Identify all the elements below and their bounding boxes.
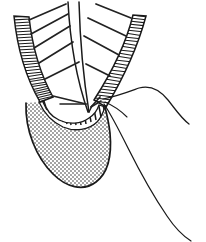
surgical-illustration <box>0 0 206 242</box>
figure-root: Perineal repair — V-shaped incision with… <box>0 0 206 242</box>
